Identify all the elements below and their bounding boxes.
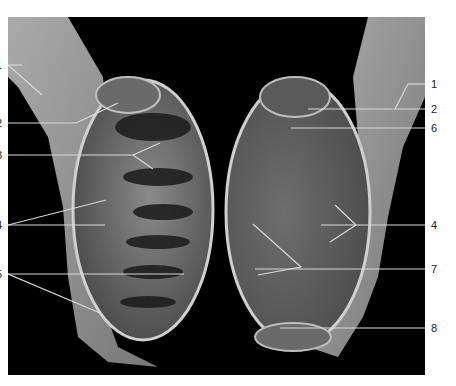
label-left-4: 4 xyxy=(0,219,2,231)
label-left-3: 3 xyxy=(0,149,2,161)
label-right-6: 6 xyxy=(431,122,437,134)
label-right-4: 4 xyxy=(431,219,437,231)
label-right-2: 2 xyxy=(431,103,437,115)
label-left-5: 5 xyxy=(0,268,2,280)
label-right-7: 7 xyxy=(431,263,437,275)
specimen-illustration xyxy=(8,17,425,375)
label-left-2: 2 xyxy=(0,117,2,129)
label-right-1: 1 xyxy=(431,78,437,90)
label-right-8: 8 xyxy=(431,322,437,334)
figure-caption-clipped xyxy=(24,0,194,4)
specimen-photograph xyxy=(8,17,425,375)
label-left-1: 1 xyxy=(0,59,2,71)
